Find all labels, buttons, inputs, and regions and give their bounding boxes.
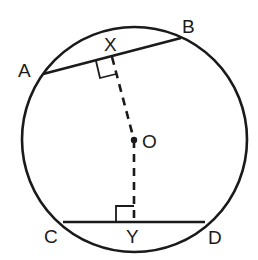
- centre-point-o: [131, 137, 137, 143]
- label-y: Y: [126, 226, 139, 247]
- label-b: B: [182, 16, 195, 37]
- segment-ox-dashed: [112, 57, 134, 140]
- label-c: C: [44, 226, 58, 247]
- label-d: D: [208, 227, 222, 248]
- label-x: X: [104, 34, 117, 55]
- label-o: O: [142, 131, 157, 152]
- circle-chord-diagram: A B X O C Y D: [0, 0, 258, 260]
- label-a: A: [18, 60, 31, 81]
- right-angle-mark-y: [116, 206, 134, 222]
